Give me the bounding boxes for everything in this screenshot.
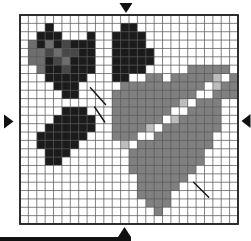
- stitch-cell-heart-gray-stitch: [137, 115, 145, 123]
- stitch-cell-white-highlight-stitch: [188, 99, 196, 107]
- stitch-cell-light-gray-stitch: [179, 99, 187, 107]
- stitch-cell-white-highlight-stitch: [221, 74, 229, 82]
- stitch-cell-heart-gray-stitch: [146, 182, 154, 190]
- stitch-cell-heart-gray-stitch: [121, 115, 129, 123]
- stitch-cell-medium-gray-stitch: [62, 57, 70, 65]
- stitch-cell-black-stitch: [54, 157, 62, 165]
- stitch-cell-black-stitch: [62, 132, 70, 140]
- stitch-cell-heart-gray-stitch: [188, 140, 196, 148]
- stitch-cell-heart-gray-stitch: [137, 82, 145, 90]
- stitch-cell-black-stitch: [54, 74, 62, 82]
- stitch-cell-heart-gray-stitch: [188, 165, 196, 173]
- stitch-cell-heart-gray-stitch: [188, 124, 196, 132]
- stitch-cell-black-stitch: [45, 140, 53, 148]
- stitch-cell-heart-gray-stitch: [137, 191, 145, 199]
- stitch-cell-heart-gray-stitch: [154, 149, 162, 157]
- stitch-cell-heart-gray-stitch: [137, 99, 145, 107]
- stitch-cell-heart-gray-stitch: [179, 82, 187, 90]
- stitch-cell-white-highlight-stitch: [121, 149, 129, 157]
- stitch-cell-black-stitch: [87, 65, 95, 73]
- stitch-cell-black-stitch: [129, 57, 137, 65]
- stitch-cell-heart-gray-stitch: [163, 140, 171, 148]
- stitch-cell-heart-gray-stitch: [204, 65, 212, 73]
- stitch-cell-heart-gray-stitch: [129, 132, 137, 140]
- stitch-cell-black-stitch: [129, 48, 137, 56]
- stitch-cell-dark-gray-stitch: [45, 48, 53, 56]
- stitch-cell-heart-gray-stitch: [196, 74, 204, 82]
- stitch-cell-heart-gray-stitch: [163, 199, 171, 207]
- stitch-cell-heart-gray-stitch: [179, 140, 187, 148]
- stitch-cell-black-stitch: [62, 140, 70, 148]
- stitch-cell-black-stitch: [62, 149, 70, 157]
- stitch-cell-black-stitch: [54, 40, 62, 48]
- stitch-cell-black-stitch: [54, 149, 62, 157]
- cross-stitch-pattern-page: [0, 0, 251, 241]
- stitch-cell-heart-gray-stitch: [213, 99, 221, 107]
- stitch-cell-black-stitch: [45, 132, 53, 140]
- stitch-cell-black-stitch: [70, 90, 78, 98]
- stitch-cell-black-stitch: [45, 32, 53, 40]
- stitch-cell-heart-gray-stitch: [129, 82, 137, 90]
- stitch-cell-white-highlight-stitch: [171, 107, 179, 115]
- stitch-cell-heart-gray-stitch: [154, 174, 162, 182]
- stitch-cell-black-stitch: [137, 40, 145, 48]
- stitch-cell-heart-gray-stitch: [146, 157, 154, 165]
- stitch-cell-heart-gray-stitch: [129, 99, 137, 107]
- stitch-cell-black-stitch: [37, 140, 45, 148]
- stitch-cell-heart-gray-stitch: [112, 99, 120, 107]
- stitch-cell-black-stitch: [121, 40, 129, 48]
- stitch-cell-black-stitch: [62, 124, 70, 132]
- stitch-cell-black-stitch: [70, 82, 78, 90]
- stitch-cell-heart-gray-stitch: [137, 157, 145, 165]
- stitch-cell-black-stitch: [112, 32, 120, 40]
- stitch-cell-heart-gray-stitch: [171, 82, 179, 90]
- stitch-cell-heart-gray-stitch: [121, 107, 129, 115]
- stitch-cell-heart-gray-stitch: [154, 99, 162, 107]
- stitch-cell-heart-gray-stitch: [146, 149, 154, 157]
- stitch-cell-heart-gray-stitch: [163, 149, 171, 157]
- stitch-cell-heart-gray-stitch: [171, 140, 179, 148]
- stitch-cell-heart-gray-stitch: [163, 157, 171, 165]
- stitch-cell-heart-gray-stitch: [121, 90, 129, 98]
- stitch-cell-black-stitch: [54, 82, 62, 90]
- stitch-cell-heart-gray-stitch: [137, 124, 145, 132]
- stitch-cell-heart-gray-stitch: [163, 124, 171, 132]
- stitch-cell-heart-gray-stitch: [154, 107, 162, 115]
- stitch-cell-white-highlight-stitch: [204, 82, 212, 90]
- center-marker-right-triangle-icon: [242, 114, 251, 128]
- stitch-cell-black-stitch: [70, 65, 78, 73]
- stitch-cell-black-stitch: [70, 40, 78, 48]
- stitch-cell-heart-gray-stitch: [188, 82, 196, 90]
- stitch-cell-heart-gray-stitch: [204, 140, 212, 148]
- stitch-cell-black-stitch: [121, 57, 129, 65]
- stitch-cell-heart-gray-stitch: [146, 140, 154, 148]
- stitch-cell-black-stitch: [70, 115, 78, 123]
- backstitch-line: [95, 107, 105, 122]
- stitch-cell-black-stitch: [70, 107, 78, 115]
- stitch-cell-heart-gray-stitch: [188, 65, 196, 73]
- stitch-cell-heart-gray-stitch: [129, 115, 137, 123]
- stitch-cell-heart-gray-stitch: [121, 99, 129, 107]
- stitch-cell-heart-gray-stitch: [154, 191, 162, 199]
- stitch-cell-black-stitch: [121, 74, 129, 82]
- stitch-cell-black-stitch: [70, 140, 78, 148]
- stitch-cell-black-stitch: [129, 23, 137, 31]
- stitch-cell-heart-gray-stitch: [129, 149, 137, 157]
- stitch-cell-heart-gray-stitch: [213, 107, 221, 115]
- stitch-cell-black-stitch: [70, 57, 78, 65]
- stitch-cell-heart-gray-stitch: [154, 165, 162, 173]
- stitch-cell-black-stitch: [70, 132, 78, 140]
- stitch-cell-heart-gray-stitch: [171, 149, 179, 157]
- stitch-cell-heart-gray-stitch: [137, 182, 145, 190]
- stitch-cell-black-stitch: [79, 65, 87, 73]
- stitch-cell-heart-gray-stitch: [221, 82, 229, 90]
- center-marker-top-triangle-icon: [120, 3, 133, 13]
- stitch-cell-heart-gray-stitch: [146, 74, 154, 82]
- stitch-cell-heart-gray-stitch: [137, 140, 145, 148]
- stitch-cell-black-stitch: [62, 115, 70, 123]
- stitch-cell-heart-gray-stitch: [213, 65, 221, 73]
- stitch-cell-black-stitch: [45, 23, 53, 31]
- stitch-cell-black-stitch: [112, 57, 120, 65]
- stitch-cell-black-stitch: [54, 140, 62, 148]
- stitch-cell-black-stitch: [137, 57, 145, 65]
